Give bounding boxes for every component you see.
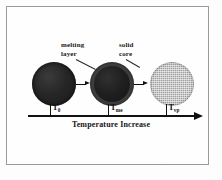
arrow-head-icon	[143, 81, 148, 85]
callout-melting-layer-line1: melting	[61, 41, 84, 50]
transition-arrow-2	[134, 82, 148, 86]
transition-arrow-1	[76, 82, 90, 86]
axis-tick-t0	[50, 104, 51, 115]
molten-particle	[150, 62, 194, 106]
axis-tick-tvp	[166, 104, 167, 115]
axis-label-t0-subscript: 0	[58, 107, 61, 113]
arrow-head-icon	[85, 81, 90, 85]
temperature-axis-arrowhead-icon	[194, 112, 203, 120]
solid-core-region	[94, 66, 130, 102]
callout-solid-core-line2: core	[119, 50, 134, 59]
axis-label-tme-subscript: me	[116, 107, 123, 113]
axis-label-tvp-subscript: vp	[174, 107, 179, 113]
callout-melting-layer: melting layer	[61, 41, 84, 58]
axis-tick-tme	[108, 104, 109, 115]
axis-label-t0: T0	[53, 103, 61, 112]
callout-solid-core: solid core	[119, 41, 134, 58]
temperature-axis-line	[28, 115, 196, 117]
solid-particle	[32, 62, 76, 106]
axis-label-tme: Tme	[111, 103, 123, 112]
diagram-canvas: melting layer solid core T0 Tme Tvp Temp…	[0, 0, 222, 180]
callout-solid-core-line1: solid	[119, 41, 134, 50]
callout-melting-layer-line2: layer	[61, 50, 84, 59]
axis-label-tvp: Tvp	[169, 103, 180, 112]
axis-caption: Temperature Increase	[0, 120, 222, 129]
partially-molten-particle	[90, 62, 134, 106]
